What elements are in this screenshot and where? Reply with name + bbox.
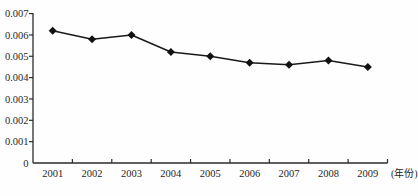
y-tick-label: 0.007 (5, 8, 29, 19)
data-point-marker (88, 35, 96, 43)
x-tick-label: 2006 (239, 168, 260, 179)
data-point-marker (127, 31, 135, 39)
chart-figure: 00.0010.0020.0030.0040.0050.0060.0072001… (0, 0, 418, 196)
y-tick-label: 0.004 (5, 72, 29, 83)
series-line (53, 31, 368, 67)
x-tick-label: 2003 (121, 168, 142, 179)
x-axis-unit-label: (年份) (391, 167, 418, 180)
x-tick-label: 2002 (82, 168, 103, 179)
data-point-marker (324, 57, 332, 65)
line-chart: 00.0010.0020.0030.0040.0050.0060.0072001… (0, 0, 418, 196)
y-tick-label: 0.003 (5, 94, 29, 105)
data-point-marker (285, 61, 293, 69)
y-tick-label: 0.002 (5, 115, 29, 126)
data-point-marker (246, 59, 254, 67)
x-tick-label: 2001 (42, 168, 63, 179)
y-tick-label: 0.001 (5, 136, 29, 147)
x-tick-label: 2009 (357, 168, 378, 179)
x-tick-label: 2008 (318, 168, 339, 179)
x-tick-label: 2004 (160, 168, 182, 179)
x-tick-label: 2007 (279, 168, 300, 179)
y-tick-label: 0.006 (5, 30, 29, 41)
y-tick-label: 0 (23, 158, 28, 169)
data-point-marker (49, 27, 57, 35)
x-tick-label: 2005 (200, 168, 221, 179)
data-point-marker (206, 52, 214, 60)
data-point-marker (364, 63, 372, 71)
data-point-marker (167, 48, 175, 56)
y-tick-label: 0.005 (5, 51, 29, 62)
